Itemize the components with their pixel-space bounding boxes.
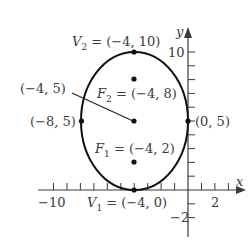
- label-v1: V1 = (−4, 0): [87, 195, 167, 213]
- label-center: (−4, 5): [20, 81, 66, 96]
- y-tick-label-neg2: −2: [170, 210, 189, 225]
- x-tick-label-neg10: −10: [38, 195, 65, 210]
- label-right-vertex: (0, 5): [195, 114, 230, 129]
- y-axis: y 10 −2: [168, 24, 195, 237]
- vertex-v2-point: [131, 49, 136, 54]
- label-f1: F1 = (−4, 2): [94, 141, 175, 159]
- label-left-vertex: (−8, 5): [30, 114, 76, 129]
- x-tick-label-2: 2: [211, 195, 219, 210]
- center-point: [131, 118, 136, 123]
- vertex-v1-point: [131, 187, 136, 192]
- label-f2: F2 = (−4, 8): [96, 86, 177, 104]
- label-v2: V2 = (−4, 10): [72, 34, 160, 52]
- y-axis-arrow-icon: [184, 27, 192, 38]
- x-axis-label: x: [236, 174, 244, 189]
- ellipse-diagram: x −10 2 y 10 −2: [0, 0, 251, 243]
- focus-f2-point: [131, 76, 136, 81]
- y-tick-label-10: 10: [168, 45, 185, 60]
- left-vertex-point: [79, 118, 84, 123]
- focus-f1-point: [131, 159, 136, 164]
- right-vertex-point: [185, 118, 190, 123]
- y-axis-ticks: [188, 52, 195, 218]
- y-axis-label: y: [175, 24, 184, 39]
